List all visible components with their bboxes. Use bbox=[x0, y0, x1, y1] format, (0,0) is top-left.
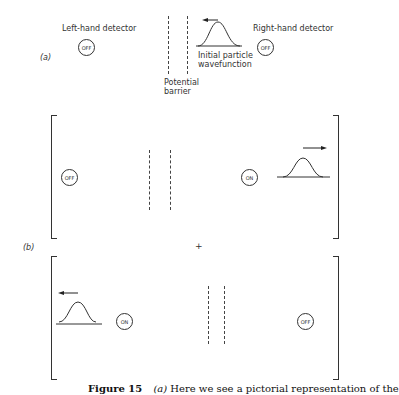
reflected-wavefunction-icon bbox=[56, 290, 104, 326]
caption-panel-label: (a) bbox=[153, 383, 167, 394]
bracket-right bbox=[333, 115, 339, 239]
barrier-wall-left bbox=[208, 286, 209, 344]
left-detector: OFF bbox=[61, 169, 78, 186]
transmitted-wavefunction-icon bbox=[277, 145, 333, 180]
right-detector-label: Right-hand detector bbox=[253, 24, 333, 33]
right-detector: OFF bbox=[297, 313, 314, 330]
figure-caption: Figure 15 (a) Here we see a pictorial re… bbox=[88, 383, 399, 394]
left-detector: ON bbox=[116, 313, 133, 330]
panel-b-label: (b) bbox=[23, 243, 34, 252]
barrier-label-line1: Potential bbox=[164, 78, 199, 87]
left-detector: OFF bbox=[78, 39, 95, 56]
right-detector: ON bbox=[241, 169, 258, 186]
figure-number: Figure 15 bbox=[88, 383, 142, 394]
barrier-wall-right bbox=[187, 16, 188, 74]
barrier-wall-left bbox=[168, 16, 169, 74]
initial-wavefunction-icon bbox=[196, 15, 246, 49]
wave-label-line2: wavefunction bbox=[198, 60, 252, 69]
bracket-right bbox=[333, 256, 339, 380]
barrier-wall-left bbox=[149, 150, 150, 210]
left-detector-label: Left-hand detector bbox=[62, 24, 136, 33]
barrier-wall-right bbox=[170, 150, 171, 210]
barrier-wall-right bbox=[224, 286, 225, 344]
right-detector: OFF bbox=[257, 39, 274, 56]
caption-text: Here we see a pictorial representation o… bbox=[170, 383, 398, 394]
wave-label-line1: Initial particle bbox=[198, 51, 253, 60]
barrier-label-line2: barrier bbox=[164, 87, 191, 96]
bracket-left bbox=[51, 115, 57, 239]
panel-a-label: (a) bbox=[40, 53, 51, 62]
superposition-plus: + bbox=[195, 242, 203, 251]
